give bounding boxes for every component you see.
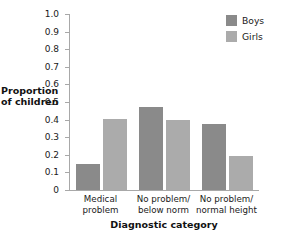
bar-boys-group-1 — [76, 164, 100, 190]
y-axis-tick-label: 0.3 — [45, 133, 59, 142]
bar-boys-group-3 — [202, 124, 226, 190]
y-axis-tick: 0.6 — [65, 84, 69, 85]
y-axis-tick: 1.0 — [65, 14, 69, 15]
bar-girls-group-3 — [229, 156, 253, 190]
legend-label-girls: Girls — [242, 31, 263, 42]
bar-girls-group-2 — [166, 120, 190, 190]
x-axis-category-label-line-1: No problem/ — [184, 194, 270, 205]
x-axis-category-label-line-2: normal height — [184, 205, 270, 216]
y-axis-tick: 0.7 — [65, 67, 69, 68]
y-axis-tick-label: 0.5 — [45, 98, 59, 107]
y-axis-tick: 0.3 — [65, 137, 69, 138]
cropped-title-remnant — [38, 0, 198, 6]
legend-swatch-girls — [226, 31, 237, 42]
chart-legend: BoysGirls — [226, 14, 264, 46]
y-axis-tick-label: 0.4 — [45, 115, 59, 124]
x-axis-title: Diagnostic category — [69, 219, 259, 230]
y-axis-tick: 0 — [65, 190, 69, 191]
bar-boys-group-2 — [139, 107, 163, 190]
y-axis-tick: 0.4 — [65, 120, 69, 121]
y-axis-tick: 0.5 — [65, 102, 69, 103]
y-axis-tick-label: 0.6 — [45, 80, 59, 89]
bar-girls-group-1 — [103, 119, 127, 190]
y-axis-tick: 0.8 — [65, 49, 69, 50]
legend-item-girls: Girls — [226, 30, 264, 43]
y-axis-tick: 0.1 — [65, 172, 69, 173]
y-axis-tick: 0.2 — [65, 155, 69, 156]
x-axis-category-label: No problem/normal height — [184, 194, 270, 215]
legend-label-boys: Boys — [242, 15, 264, 26]
y-axis-tick: 0.9 — [65, 32, 69, 33]
y-axis-tick-label: 0.7 — [45, 62, 59, 71]
bar-chart: Proportion of children 00.10.20.30.40.50… — [0, 0, 291, 235]
y-axis-tick-label: 0.8 — [45, 45, 59, 54]
y-axis-tick-label: 0.9 — [45, 27, 59, 36]
y-axis-tick-label: 1.0 — [45, 10, 59, 19]
x-axis-line — [69, 190, 259, 191]
y-axis-tick-label: 0.2 — [45, 150, 59, 159]
legend-swatch-boys — [226, 15, 237, 26]
y-axis-tick-label: 0.1 — [45, 168, 59, 177]
legend-item-boys: Boys — [226, 14, 264, 27]
x-axis-category-labels: MedicalproblemNo problem/below normNo pr… — [69, 194, 259, 220]
